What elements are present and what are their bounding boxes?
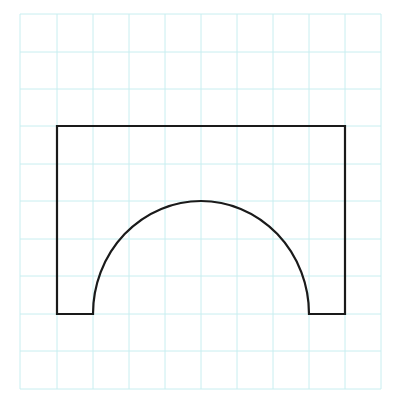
grid-diagram: [0, 0, 401, 415]
